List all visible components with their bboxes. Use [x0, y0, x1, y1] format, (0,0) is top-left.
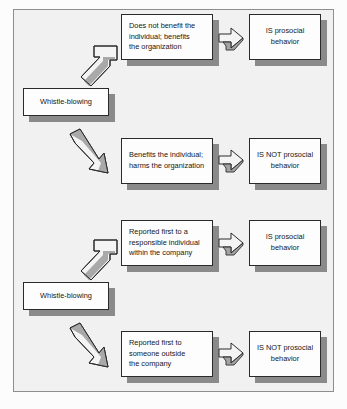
box-card: Benefits the individual; harms the organ… — [121, 138, 213, 184]
condition-label-2b: Reported first to someone outside the co… — [122, 338, 212, 370]
condition-box-2a: Reported first to a responsible individu… — [121, 220, 213, 266]
diagram-figure: Whistle-blowing Does not benefit the ind… — [0, 0, 347, 409]
outcome-box-2b: IS NOT prosocial behavior — [249, 331, 321, 377]
box-card: IS NOT prosocial behavior — [249, 138, 321, 184]
box-card: Whistle-blowing — [23, 282, 109, 310]
condition-box-2b: Reported first to someone outside the co… — [121, 331, 213, 377]
condition-label-2a: Reported first to a responsible individu… — [122, 227, 212, 259]
box-card: Does not benefit the individual; benefit… — [121, 14, 213, 60]
box-card: IS prosocial behavior — [249, 220, 321, 266]
outcome-arrow-1b — [218, 149, 246, 173]
outcome-arrow-2b — [218, 342, 246, 366]
outcome-box-2a: IS prosocial behavior — [249, 220, 321, 266]
condition-box-1a: Does not benefit the individual; benefit… — [121, 14, 213, 60]
condition-label-1b: Benefits the individual; harms the organ… — [122, 150, 212, 171]
box-card: Reported first to a responsible individu… — [121, 220, 213, 266]
branch-arrow-down-1 — [68, 128, 124, 180]
outcome-arrow-1a — [218, 27, 246, 51]
source-box-1: Whistle-blowing — [23, 88, 109, 116]
box-card: IS NOT prosocial behavior — [249, 331, 321, 377]
condition-label-1a: Does not benefit the individual; benefit… — [122, 21, 212, 53]
outcome-label-1b: IS NOT prosocial behavior — [250, 150, 320, 171]
source-label-2: Whistle-blowing — [24, 291, 108, 302]
source-label-1: Whistle-blowing — [24, 97, 108, 108]
outcome-label-2a: IS prosocial behavior — [250, 232, 320, 253]
outcome-box-1a: IS prosocial behavior — [249, 14, 321, 60]
source-box-2: Whistle-blowing — [23, 282, 109, 310]
box-card: Reported first to someone outside the co… — [121, 331, 213, 377]
condition-box-1b: Benefits the individual; harms the organ… — [121, 138, 213, 184]
outcome-label-2b: IS NOT prosocial behavior — [250, 343, 320, 364]
outcome-label-1a: IS prosocial behavior — [250, 26, 320, 47]
branch-arrow-down-2 — [68, 322, 124, 374]
box-card: Whistle-blowing — [23, 88, 109, 116]
branch-arrow-up-2 — [76, 238, 126, 286]
outcome-box-1b: IS NOT prosocial behavior — [249, 138, 321, 184]
outcome-arrow-2a — [218, 232, 246, 256]
box-card: IS prosocial behavior — [249, 14, 321, 60]
branch-arrow-up-1 — [76, 44, 126, 92]
